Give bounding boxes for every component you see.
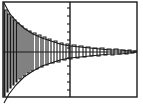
plot-canvas [0, 0, 143, 110]
chart-figure [0, 0, 143, 110]
